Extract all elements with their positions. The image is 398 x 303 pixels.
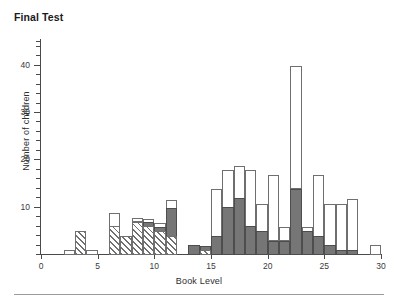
bar-segment-white	[64, 250, 75, 255]
y-tick-minor	[36, 226, 40, 227]
bar-segment-gray	[279, 241, 290, 255]
bar-segment-hatch	[109, 226, 120, 254]
bar-segment-gray	[188, 245, 199, 254]
histogram-bar	[154, 221, 165, 254]
bar-segment-white	[211, 189, 222, 236]
bar-segment-gray	[313, 236, 324, 255]
histogram-bar	[268, 174, 279, 254]
y-tick-minor	[36, 197, 40, 198]
bar-segment-white	[313, 175, 324, 237]
bar-segment-hatch	[154, 231, 165, 255]
bar-segment-white	[370, 245, 381, 254]
y-tick-minor	[36, 121, 40, 122]
bar-segment-white	[336, 204, 347, 251]
bar-segment-white	[324, 204, 335, 247]
histogram-bar	[324, 202, 335, 254]
y-tick-minor	[36, 103, 40, 104]
bar-segment-white	[347, 199, 358, 251]
bar-segment-white	[268, 175, 279, 241]
x-tick-label: 20	[257, 262, 279, 271]
bar-segment-white	[86, 250, 97, 255]
histogram-bar	[64, 249, 75, 254]
histogram-bar	[222, 169, 233, 254]
x-tick-label: 30	[370, 262, 392, 271]
histogram-bar	[336, 202, 347, 254]
bar-segment-white	[256, 204, 267, 232]
bar-segment-gray	[268, 241, 279, 255]
y-tick-minor	[36, 93, 40, 94]
bar-segment-gray	[211, 236, 222, 255]
bar-segment-hatch	[120, 236, 131, 255]
bar-segment-hatch	[143, 226, 154, 254]
x-tick-label: 10	[143, 262, 165, 271]
histogram-bar	[188, 245, 199, 254]
y-tick-minor	[36, 46, 40, 47]
y-tick-minor	[36, 178, 40, 179]
histogram-bar	[370, 245, 381, 254]
x-tick	[98, 254, 99, 259]
histogram-bar	[313, 174, 324, 254]
y-tick-minor	[36, 74, 40, 75]
bar-segment-gray	[324, 245, 335, 254]
y-tick-minor	[36, 216, 40, 217]
histogram-bar	[143, 216, 154, 254]
histogram-bar	[302, 226, 313, 254]
bar-segment-gray	[245, 226, 256, 254]
x-tick-label: 25	[313, 262, 335, 271]
figure-container: Final Test 10203040 051015202530 Number …	[0, 0, 398, 303]
bar-segment-gray	[347, 250, 358, 255]
x-tick-label: 15	[200, 262, 222, 271]
y-tick-minor	[36, 245, 40, 246]
bar-segment-gray	[290, 189, 301, 255]
y-tick-minor	[36, 150, 40, 151]
chart-title: Final Test	[14, 11, 63, 23]
bar-segment-white	[279, 227, 290, 241]
bar-segment-white	[109, 213, 120, 227]
bottom-rule-divider	[14, 294, 384, 295]
bar-segment-white	[290, 66, 301, 189]
histogram-bar	[120, 235, 131, 254]
bar-segment-white	[234, 166, 245, 199]
plot-area	[41, 41, 381, 254]
histogram-bar	[86, 249, 97, 254]
y-tick-minor	[36, 55, 40, 56]
histogram-bar	[290, 65, 301, 254]
y-tick-major	[34, 207, 40, 208]
histogram-bar	[347, 197, 358, 254]
y-tick-minor	[36, 235, 40, 236]
bar-segment-white	[222, 170, 233, 208]
bar-segment-gray	[234, 198, 245, 255]
y-tick-minor	[36, 140, 40, 141]
y-tick-major	[34, 112, 40, 113]
x-tick-label: 0	[30, 262, 52, 271]
bar-segment-hatch	[132, 222, 143, 255]
x-tick	[381, 254, 382, 259]
histogram-bar	[166, 197, 177, 254]
bar-segment-gray	[336, 250, 347, 255]
x-tick	[41, 254, 42, 259]
histogram-bar	[234, 164, 245, 254]
bar-segment-white	[245, 170, 256, 227]
y-tick-minor	[36, 188, 40, 189]
x-tick-label: 5	[87, 262, 109, 271]
histogram-bar	[256, 202, 267, 254]
histogram-bar	[75, 230, 86, 254]
bar-segment-gray	[256, 231, 267, 255]
bar-segment-gray	[302, 231, 313, 255]
y-tick-minor	[36, 254, 40, 255]
y-tick-minor	[36, 131, 40, 132]
bar-segment-hatch	[166, 236, 177, 255]
histogram-bars	[41, 41, 381, 254]
histogram-bar	[279, 226, 290, 254]
x-axis-label: Book Level	[0, 276, 398, 286]
y-tick-major	[34, 159, 40, 160]
histogram-bar	[211, 188, 222, 254]
histogram-bar	[132, 216, 143, 254]
bar-segment-hatch	[200, 250, 211, 255]
histogram-bar	[109, 211, 120, 254]
y-tick-major	[34, 65, 40, 66]
bar-segment-gray	[166, 208, 177, 236]
y-tick-minor	[36, 169, 40, 170]
histogram-bar	[200, 245, 211, 254]
y-tick-minor	[36, 84, 40, 85]
